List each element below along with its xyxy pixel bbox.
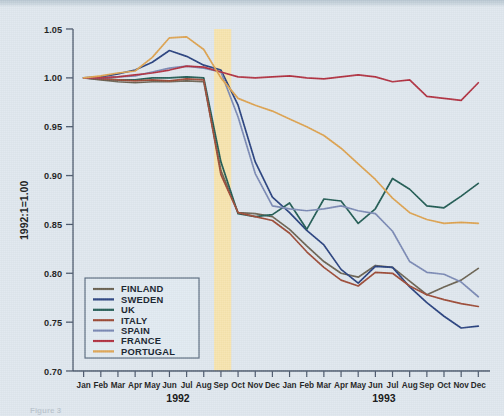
x-tick-label: Sep [419,381,434,390]
x-tick-label: Dec [471,381,486,390]
x-tick-label: Feb [299,381,314,390]
x-tick-label: Jun [162,381,177,390]
legend-label-france[interactable]: FRANCE [121,335,161,346]
legend-label-uk[interactable]: UK [121,304,135,315]
legend-label-portugal[interactable]: PORTUGAL [121,346,175,357]
y-tick-label: 1.00 [44,73,62,83]
legend-label-finland[interactable]: FINLAND [121,283,164,294]
x-tick-label: Jun [368,381,383,390]
series-line-france [84,66,479,100]
y-axis-ticks: 1.051.000.950.900.850.800.750.70 [44,25,73,377]
figure-caption: Figure 3 [30,406,62,415]
series-line-italy [84,78,479,307]
x-axis-ticks [84,371,479,377]
x-tick-label: Aug [196,381,212,390]
y-tick-label: 0.90 [44,171,62,181]
period-label: 1992 [166,392,190,404]
x-tick-label: Mar [317,381,332,390]
x-tick-label: Oct [437,381,451,390]
series-line-portugal [84,37,479,224]
x-tick-label: May [350,381,366,390]
legend-label-sweden[interactable]: SWEDEN [121,294,163,305]
x-tick-label: May [144,381,160,390]
x-tick-label: Jul [181,381,193,390]
y-tick-label: 0.75 [44,318,62,328]
x-tick-label: Dec [265,381,280,390]
x-tick-label: Sep [213,381,228,390]
y-tick-label: 1.05 [44,25,62,35]
x-tick-label: Nov [248,381,264,390]
x-tick-label: Feb [94,381,109,390]
y-tick-label: 0.85 [44,220,62,230]
period-label: 1993 [372,392,396,404]
x-tick-label: Oct [231,381,245,390]
legend-label-spain[interactable]: SPAIN [121,325,150,336]
period-labels: 19921993 [166,392,395,404]
x-tick-label: Nov [453,381,469,390]
x-tick-label: Apr [128,381,143,390]
x-tick-label: Jul [387,381,399,390]
y-tick-label: 0.70 [44,367,62,377]
series-line-finland [84,78,479,295]
chart-legend[interactable]: FINLANDSWEDENUKITALYSPAINFRANCEPORTUGAL [85,278,199,358]
x-tick-label: Apr [334,381,349,390]
series-line-spain [84,66,479,297]
x-axis-tick-labels: JanFebMarAprMayJunJulAugSepOctNovDecJanF… [77,381,487,390]
series-line-uk [84,77,479,229]
x-tick-label: Jan [283,381,297,390]
x-tick-label: Aug [402,381,418,390]
x-tick-label: Mar [111,381,126,390]
exchange-rate-line-chart: 1.051.000.950.900.850.800.750.70 JanFebM… [0,0,504,416]
legend-label-italy[interactable]: ITALY [121,315,148,326]
figure-container: 1.051.000.950.900.850.800.750.70 JanFebM… [0,0,504,416]
x-tick-label: Jan [77,381,91,390]
y-axis-title: 1992:1=1.00 [18,181,30,240]
y-tick-label: 0.80 [44,269,62,279]
y-tick-label: 0.95 [44,122,62,132]
